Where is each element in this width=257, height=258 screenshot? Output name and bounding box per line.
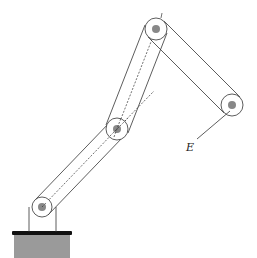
top-joint <box>145 18 167 40</box>
end-joint <box>221 94 243 116</box>
elbow-joint <box>106 118 128 140</box>
base-joint <box>32 197 52 217</box>
top-tick-mark <box>161 13 162 18</box>
robot-arm-diagram: E <box>0 0 257 258</box>
end-effector-label: E <box>185 141 194 154</box>
end-effector-leader <box>197 111 230 139</box>
